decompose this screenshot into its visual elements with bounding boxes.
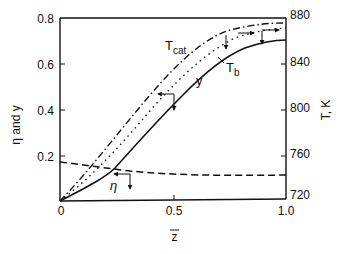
label-t-cat: Tcat — [165, 38, 187, 56]
tick-x-10: 1.0 — [278, 204, 295, 218]
tick-right-840: 840 — [290, 55, 310, 69]
y-left-axis-label: η and y — [9, 105, 23, 144]
curve-y — [60, 40, 286, 201]
right-axis-ticks — [281, 64, 286, 156]
x-axis-label: z — [170, 230, 179, 244]
left-axis-ticks — [60, 64, 65, 156]
tick-left-02: 0.2 — [37, 150, 54, 164]
direction-arrows — [114, 30, 279, 189]
y-right-axis-label: T, K — [319, 100, 333, 121]
label-y: y — [196, 73, 203, 88]
tick-right-760: 760 — [290, 147, 310, 161]
curve-eta — [60, 162, 286, 175]
tick-right-720: 720 — [290, 188, 310, 202]
label-t-b: Tb — [226, 60, 240, 78]
label-eta: η — [110, 178, 117, 193]
svg-text:z: z — [172, 230, 178, 244]
tick-right-880: 880 — [290, 8, 310, 22]
tick-left-04: 0.4 — [37, 104, 54, 118]
tick-x-0: 0 — [58, 204, 65, 218]
tick-left-08: 0.8 — [37, 12, 54, 26]
tick-right-800: 800 — [290, 101, 310, 115]
tick-left-06: 0.6 — [37, 58, 54, 72]
tick-x-05: 0.5 — [166, 204, 183, 218]
chart: 0.8 0.6 0.4 0.2 880 840 800 760 720 0 0.… — [0, 0, 340, 254]
